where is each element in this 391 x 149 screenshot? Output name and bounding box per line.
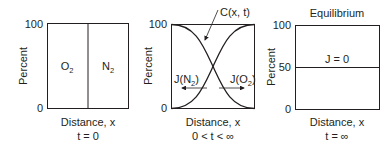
o2-concentration-curve: [172, 25, 255, 109]
panel-equilibrium: Equilibrium J = 0 100 50 0 Percent Dista…: [265, 7, 380, 142]
flux-o2-label: J(O2): [230, 73, 256, 88]
region-o2-label: O2: [61, 60, 74, 75]
time-label: t = ∞: [325, 130, 348, 142]
tick-50: 50: [279, 61, 291, 73]
diffusion-diagram: 100 0 Percent O2 N2 Distance, x t = 0 C(…: [0, 0, 391, 149]
x-axis-label: Distance, x: [186, 116, 241, 128]
region-n2-label: N2: [102, 60, 114, 75]
tick-100: 100: [25, 18, 43, 30]
time-label: 0 < t < ∞: [192, 130, 234, 142]
curve-label: C(x, t): [220, 6, 250, 18]
tick-0: 0: [285, 103, 291, 115]
tick-0: 0: [161, 102, 167, 114]
y-axis-label: Percent: [17, 47, 29, 85]
x-axis-label: Distance, x: [61, 116, 116, 128]
flux-n2-label: J(N2): [174, 73, 199, 88]
panel-transient: C(x, t) 100 0 Percent J(N2) J(O2) Distan…: [142, 6, 256, 142]
x-axis-label: Distance, x: [310, 116, 365, 128]
tick-100: 100: [149, 18, 167, 30]
tick-0: 0: [37, 102, 43, 114]
y-axis-label: Percent: [265, 48, 277, 86]
y-axis-label: Percent: [142, 47, 154, 85]
panel-title: Equilibrium: [310, 7, 364, 19]
time-label: t = 0: [77, 130, 99, 142]
flux-zero-label: J = 0: [325, 53, 349, 65]
tick-100: 100: [273, 19, 291, 31]
panel-initial: 100 0 Percent O2 N2 Distance, x t = 0: [17, 18, 129, 142]
